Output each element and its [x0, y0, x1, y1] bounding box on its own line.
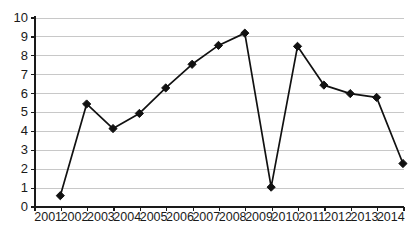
x-axis-labels-group: 2001200220032004200520062007200820092010…: [34, 210, 404, 224]
line-chart: 012345678910 200120022003200420052006200…: [0, 0, 413, 242]
y-tick-label-0: 0: [21, 199, 28, 214]
x-tick-label-2014: 2014: [377, 210, 405, 224]
x-tick-label-2003: 2003: [87, 210, 115, 224]
y-tick-label-8: 8: [21, 48, 28, 63]
x-tick-label-2012: 2012: [324, 210, 352, 224]
x-tick-label-2004: 2004: [113, 210, 141, 224]
y-tick-label-4: 4: [21, 123, 28, 138]
x-tick-label-2011: 2011: [298, 210, 325, 224]
y-tick-label-6: 6: [21, 86, 28, 101]
x-tick-label-2002: 2002: [61, 210, 89, 224]
x-tick-label-2005: 2005: [140, 210, 168, 224]
y-tick-label-10: 10: [14, 10, 28, 25]
y-tick-label-2: 2: [21, 161, 28, 176]
y-tick-label-5: 5: [21, 104, 28, 119]
x-tick-label-2010: 2010: [271, 210, 299, 224]
x-tick-label-2006: 2006: [166, 210, 194, 224]
x-tick-label-2001: 2001: [34, 210, 62, 224]
y-tick-label-9: 9: [21, 29, 28, 44]
x-tick-label-2009: 2009: [245, 210, 273, 224]
x-tick-label-2007: 2007: [192, 210, 220, 224]
chart-svg: 012345678910 200120022003200420052006200…: [0, 0, 413, 242]
x-tick-label-2013: 2013: [351, 210, 379, 224]
chart-plot-area: 012345678910 200120022003200420052006200…: [0, 0, 413, 242]
y-tick-label-3: 3: [21, 142, 28, 157]
x-tick-label-2008: 2008: [219, 210, 247, 224]
y-tick-label-7: 7: [21, 67, 28, 82]
y-tick-label-1: 1: [21, 180, 28, 195]
chart-background: [0, 0, 413, 242]
